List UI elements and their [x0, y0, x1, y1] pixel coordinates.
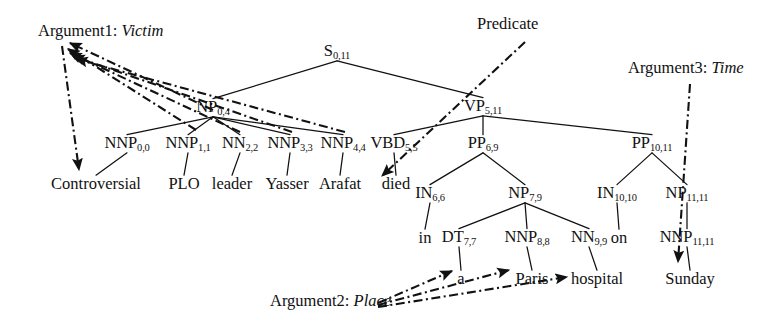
- edge-PP6_9-NP7_9: [483, 153, 525, 185]
- annotation-arg2: Argument2: Place: [270, 293, 391, 310]
- leaf-word-w8: Paris: [516, 271, 549, 288]
- leaf-word-w9: hospital: [571, 271, 623, 288]
- annotation-arg1: Argument1: Victim: [38, 23, 163, 40]
- edge-PP10_11-NP11: [652, 153, 687, 185]
- node-span-subscript: 2,2: [246, 142, 259, 153]
- node-label: NN: [222, 133, 246, 152]
- node-span-subscript: 7,7: [464, 236, 477, 247]
- node-span-subscript: 10,11: [650, 142, 672, 153]
- edge-NN9-w9: [589, 247, 597, 270]
- edge-VP5_11-PP10_11: [483, 116, 652, 135]
- leaf-word-w7: a: [457, 271, 464, 288]
- node-span-subscript: 0,4: [217, 106, 230, 117]
- edge-NNP11-w11: [687, 247, 690, 270]
- edge-NNP3-w3: [287, 153, 290, 175]
- tree-node-np11: NP11,11: [666, 185, 709, 203]
- tree-node-in6: IN6,6: [415, 185, 445, 203]
- edge-NNP0-w0: [96, 153, 127, 175]
- tree-node-np7_9: NP7,9: [508, 185, 541, 203]
- edge-PP6_9-IN6: [430, 153, 483, 185]
- node-span-subscript: 5,5: [405, 142, 418, 153]
- annotation-prefix: Argument1:: [38, 21, 117, 40]
- role-arrow-pred: [382, 42, 525, 176]
- leaf-word-w10: on: [611, 230, 628, 247]
- node-label: NNP: [320, 133, 353, 152]
- node-span-subscript: 11,11: [687, 192, 709, 203]
- edge-NNP8-w8: [527, 247, 532, 270]
- edge-NP7_9-DT7: [459, 203, 525, 229]
- role-arrow-a2-l2: [378, 270, 509, 305]
- edge-S-NP0_4: [213, 61, 337, 99]
- node-label: NP: [196, 97, 217, 116]
- leaf-word-w4: Arafat: [319, 176, 361, 193]
- tree-node-nnp8: NNP8,8: [504, 229, 549, 247]
- edge-IN10-w10: [617, 203, 619, 229]
- tree-node-nnp0: NNP0,0: [104, 135, 149, 153]
- tree-node-vbd5: VBD5,5: [370, 135, 417, 153]
- node-span-subscript: 7,9: [529, 192, 542, 203]
- tree-node-nnp4: NNP4,4: [320, 135, 365, 153]
- node-span-subscript: 4,4: [353, 142, 366, 153]
- annotation-role: Place: [354, 291, 392, 310]
- node-span-subscript: 10,10: [614, 192, 637, 203]
- edge-NNP1-w1: [184, 153, 188, 175]
- node-label: IN: [597, 183, 614, 202]
- node-span-subscript: 0,11: [333, 50, 350, 61]
- leaf-word-w0: Controversial: [51, 176, 141, 193]
- tree-node-pp10_11: PP10,11: [632, 135, 672, 153]
- edge-NP7_9-NNP8: [525, 203, 527, 229]
- node-span-subscript: 9,9: [595, 236, 608, 247]
- annotation-arg3: Argument3: Time: [628, 60, 744, 77]
- node-label: DT: [442, 227, 464, 246]
- node-label: S: [324, 41, 333, 60]
- node-label: NP: [666, 183, 687, 202]
- parse-tree-figure: S0,11NP0,4VP5,11NNP0,0NNP1,1NN2,2NNP3,3N…: [0, 0, 782, 329]
- node-span-subscript: 1,1: [198, 142, 211, 153]
- annotation-prefix: Argument3:: [628, 58, 707, 77]
- tree-node-nnp11: NNP11,11: [660, 229, 715, 247]
- tree-node-nnp3: NNP3,3: [267, 135, 312, 153]
- edge-NP7_9-NN9: [525, 203, 589, 229]
- node-label: NP: [508, 183, 529, 202]
- edge-IN6-w6: [425, 203, 430, 229]
- node-label: PP: [632, 133, 650, 152]
- annotation-predicate: Predicate: [477, 16, 538, 33]
- node-label: NNP: [104, 133, 137, 152]
- tree-node-vp5_11: VP5,11: [464, 98, 502, 116]
- edge-NN2-w2: [232, 153, 240, 175]
- edge-PP10_11-IN10: [617, 153, 652, 185]
- node-span-subscript: 0,0: [137, 142, 150, 153]
- node-span-subscript: 11,11: [692, 236, 714, 247]
- tree-node-dt7: DT7,7: [442, 229, 476, 247]
- annotation-role: Victim: [122, 21, 164, 40]
- leaf-word-w1: PLO: [168, 176, 199, 193]
- node-label: NNP: [504, 227, 537, 246]
- leaf-word-w3: Yasser: [265, 176, 308, 193]
- leaf-word-w11: Sunday: [665, 271, 715, 288]
- node-span-subscript: 6,6: [432, 192, 445, 203]
- annotation-role: Time: [712, 58, 744, 77]
- tree-node-nn2: NN2,2: [222, 135, 258, 153]
- node-span-subscript: 8,8: [537, 236, 550, 247]
- tree-node-nnp1: NNP1,1: [165, 135, 210, 153]
- node-label: VP: [464, 96, 485, 115]
- node-label: VBD: [370, 133, 405, 152]
- tree-node-pp6_9: PP6,9: [468, 135, 499, 153]
- edge-DT7-w7: [459, 247, 461, 270]
- tree-node-s: S0,11: [324, 43, 350, 61]
- annotation-prefix: Predicate: [477, 14, 538, 33]
- tree-node-nn9: NN9,9: [571, 229, 607, 247]
- edge-S-VP5_11: [337, 61, 483, 98]
- tree-node-in10: IN10,10: [597, 185, 637, 203]
- node-label: NNP: [660, 227, 693, 246]
- node-label: PP: [468, 133, 486, 152]
- tree-node-np0_4: NP0,4: [196, 99, 229, 117]
- node-span-subscript: 5,11: [485, 105, 502, 116]
- leaf-word-w6: in: [419, 230, 432, 247]
- node-label: NN: [571, 227, 595, 246]
- leaf-word-w5: died: [382, 176, 410, 193]
- node-label: NNP: [267, 133, 300, 152]
- role-arrow-a1-l6: [62, 46, 79, 170]
- annotation-prefix: Argument2:: [270, 291, 349, 310]
- role-arrow-a1-l5: [76, 59, 345, 132]
